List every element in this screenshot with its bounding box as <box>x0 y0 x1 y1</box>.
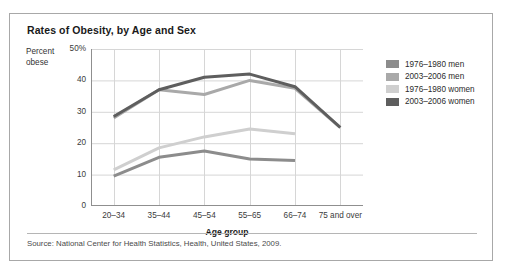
y-axis-label-line2: obese <box>26 58 48 67</box>
footer-divider <box>27 233 477 234</box>
page-title: Rates of Obesity, by Age and Sex <box>27 24 196 36</box>
gridlines <box>91 49 363 206</box>
legend-item: 1976–1980 men <box>386 58 475 71</box>
legend-item: 1976–1980 women <box>386 83 475 96</box>
x-tick-label: 75 and over <box>313 211 367 221</box>
axis-lines <box>91 49 363 206</box>
y-tick-label: 50% <box>58 44 86 53</box>
legend-swatch-icon <box>386 85 399 93</box>
chart-figure: Rates of Obesity, by Age and Sex Percent… <box>9 13 493 261</box>
chart-svg <box>91 49 363 206</box>
legend-swatch-icon <box>386 73 399 81</box>
legend-swatch-icon <box>386 60 399 68</box>
y-tick-label: 20 <box>58 138 86 147</box>
legend-item: 2003–2006 women <box>386 96 475 109</box>
legend-item: 2003–2006 men <box>386 71 475 84</box>
y-axis-label-line1: Percent <box>26 47 54 56</box>
legend-item-label: 1976–1980 men <box>405 60 464 69</box>
legend-item-label: 1976–1980 women <box>405 85 475 94</box>
chart-legend: 1976–1980 men2003–2006 men1976–1980 wome… <box>386 58 475 108</box>
x-axis-label: Age group <box>91 227 363 237</box>
legend-item-label: 2003–2006 women <box>405 97 475 106</box>
y-tick-label: 30 <box>58 107 86 116</box>
legend-swatch-icon <box>386 98 399 106</box>
y-tick-label: 10 <box>58 170 86 179</box>
plot-area <box>91 49 363 206</box>
y-tick-label: 40 <box>58 75 86 84</box>
source-note: Source: National Center for Health Stati… <box>27 239 281 248</box>
legend-item-label: 2003–2006 men <box>405 72 464 81</box>
series-lines <box>114 74 341 176</box>
y-tick-label: 0 <box>58 201 86 210</box>
